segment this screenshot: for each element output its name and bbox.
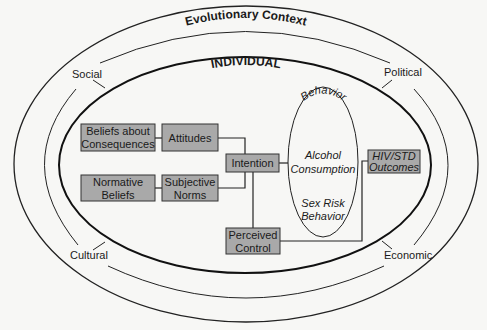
- svg-text:Norms: Norms: [174, 189, 207, 201]
- context-ring-left: [44, 89, 78, 245]
- svg-text:Outcomes: Outcomes: [369, 161, 420, 173]
- svg-text:Beliefs: Beliefs: [101, 189, 135, 201]
- box-hiv-std-outcomes: HIV/STD Outcomes: [368, 150, 420, 173]
- behavior-alcohol-line2: Consumption: [291, 163, 356, 175]
- behavior-sexrisk-line2: Behavior: [301, 210, 346, 222]
- label-cultural: Cultural: [70, 249, 108, 261]
- box-attitudes: Attitudes: [162, 124, 218, 151]
- label-social: Social: [72, 68, 102, 80]
- svg-text:Intention: Intention: [231, 157, 273, 169]
- behavior-sexrisk-line1: Sex Risk: [301, 197, 345, 209]
- behavior-alcohol-line1: Alcohol: [304, 149, 342, 161]
- svg-text:Perceived: Perceived: [229, 229, 278, 241]
- svg-text:Consequences: Consequences: [81, 138, 155, 150]
- behavior-heading: Behavior: [298, 83, 350, 103]
- svg-text:Beliefs about: Beliefs about: [86, 125, 150, 137]
- svg-text:Normative: Normative: [93, 176, 143, 188]
- svg-text:Subjective: Subjective: [165, 176, 216, 188]
- individual-title: INDIVIDUAL: [210, 54, 282, 71]
- label-political: Political: [384, 66, 422, 78]
- evolutionary-context-title: Evolutionary Context: [184, 7, 309, 29]
- theory-diagram: Evolutionary Context INDIVIDUAL Social P…: [0, 0, 487, 330]
- box-beliefs-about-consequences: Beliefs about Consequences: [81, 124, 155, 151]
- box-subjective-norms: Subjective Norms: [162, 175, 218, 201]
- svg-text:Attitudes: Attitudes: [169, 132, 212, 144]
- context-ring-bottom: [108, 266, 384, 298]
- label-economic: Economic: [384, 249, 433, 261]
- box-perceived-control: Perceived Control: [226, 228, 280, 254]
- svg-text:Control: Control: [235, 242, 270, 254]
- box-intention: Intention: [226, 154, 279, 172]
- box-normative-beliefs: Normative Beliefs: [81, 175, 155, 201]
